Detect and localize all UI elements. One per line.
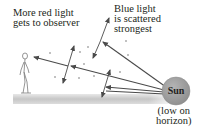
- red-label-line-2: gets to observer: [13, 18, 79, 28]
- observer-figure: [20, 53, 31, 93]
- blue-light-label: Blue light is scattered strongest: [114, 4, 161, 34]
- atmospheric-scattering-diagram: More red light gets to observer Blue lig…: [0, 0, 199, 134]
- sun-label: Sun: [162, 85, 190, 96]
- red-light-label: More red light gets to observer: [13, 8, 79, 28]
- scattered-blue-arrows: [63, 18, 110, 97]
- blue-label-line-3: strongest: [114, 24, 161, 34]
- sun-caption: (low on horizon): [156, 106, 192, 126]
- air-molecules: [49, 40, 128, 78]
- sun-rays: [34, 42, 166, 94]
- sun-caption-line-2: horizon): [156, 116, 192, 126]
